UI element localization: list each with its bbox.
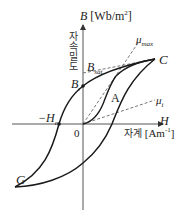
br-sub: r (78, 85, 81, 93)
br-point (81, 84, 85, 88)
point-c-label: C (159, 53, 168, 66)
mu-i-sub: i (162, 101, 164, 109)
mu-max-sub: max (142, 40, 154, 48)
b-symbol: B (80, 9, 87, 23)
mu-max-dashed-line (83, 43, 138, 124)
h-korean-label: 자계 (124, 128, 142, 139)
br-label: Br (71, 78, 81, 90)
point-g-label: G (16, 173, 25, 186)
mu-max-label: μmax (136, 34, 153, 45)
hysteresis-plot (0, 0, 189, 223)
neg-hc-main: −H (38, 111, 55, 125)
flux-density-korean-label: 자속밀도 (67, 31, 77, 71)
h-unit: [Am (145, 127, 165, 139)
h-axis-symbol: H (160, 115, 169, 127)
b-axis-label: B [Wb/m2] (80, 10, 132, 22)
b-unit: [Wb/m (90, 9, 124, 23)
hysteresis-diagram: B [Wb/m2] 자속밀도 H 자계 [Am-1] 0 C G A Br Bs… (0, 0, 189, 223)
bsat-label: Bsat (87, 61, 103, 73)
h-axis-label: 자계 [Am-1] (124, 128, 174, 139)
bsat-sub: sat (94, 68, 102, 76)
neg-hc-label: −Hc (38, 112, 58, 124)
point-a-label: A (111, 92, 120, 104)
h-unit-close: ] (171, 127, 175, 139)
neg-hc-sub: c (55, 119, 58, 127)
mu-i-label: μi (156, 95, 163, 106)
origin-label: 0 (74, 128, 80, 139)
b-unit-close: ] (128, 9, 132, 23)
